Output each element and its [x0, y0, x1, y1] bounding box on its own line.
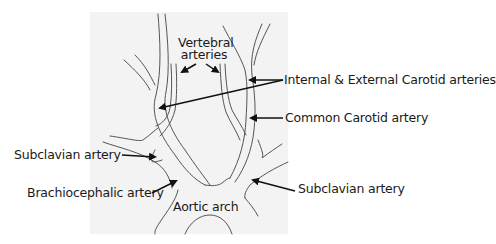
- arrows: [122, 64, 295, 193]
- label-vertebral-line2: arteries: [178, 48, 230, 62]
- label-brachiocephalic: Brachiocephalic artery: [27, 186, 164, 200]
- label-internal-external-carotid: Internal & External Carotid arteries: [284, 73, 496, 87]
- vertebral-left-arrow-icon: [182, 64, 196, 72]
- label-subclavian-left: Subclavian artery: [14, 148, 121, 162]
- vertebral-right-arrow-icon: [206, 64, 218, 72]
- subclavian-left-arrow-icon: [122, 155, 155, 157]
- label-aortic-arch: Aortic arch: [173, 200, 238, 214]
- subclavian-right-arrow-icon: [253, 180, 295, 191]
- label-subclavian-right: Subclavian artery: [298, 182, 405, 196]
- label-common-carotid: Common Carotid artery: [285, 111, 428, 125]
